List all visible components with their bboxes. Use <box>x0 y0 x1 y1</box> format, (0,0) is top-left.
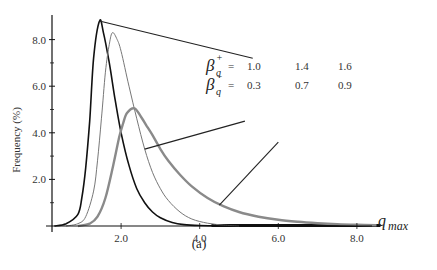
beta-plus-value-1: 1.0 <box>247 60 261 72</box>
x-tick-label: 8.0 <box>350 232 364 244</box>
beta-minus-value-3: 0.9 <box>338 79 352 91</box>
beta-minus-equals: = <box>228 79 234 91</box>
y-tick-label: 2.0 <box>32 173 46 185</box>
annotation-leader-line-3 <box>219 142 278 205</box>
beta-minus-value-1: 0.3 <box>247 79 261 91</box>
beta-minus-symbol: β <box>205 75 215 94</box>
series-line-1 <box>54 20 239 226</box>
beta-plus-value-3: 1.6 <box>338 60 352 72</box>
beta-plus-value-2: 1.4 <box>295 60 309 72</box>
x-tick-label: 6.0 <box>271 232 285 244</box>
beta-minus-value-2: 0.7 <box>295 79 309 91</box>
y-axis-title: Frequency (%) <box>10 107 23 173</box>
beta-plus-symbol: β <box>205 56 215 75</box>
series-layer <box>54 20 380 226</box>
legend: β + q = 1.0 1.4 1.6 β − q = 0.3 0.7 0.9 <box>205 52 352 97</box>
annotation-leader-line-2 <box>145 121 245 149</box>
x-tick-label: 2.0 <box>114 232 128 244</box>
x-axis-title-sub: max <box>388 219 409 233</box>
figure-caption: (a) <box>192 236 206 251</box>
legend-row-beta-minus: β − q = 0.3 0.7 0.9 <box>205 71 352 97</box>
y-tick-label: 6.0 <box>32 80 46 92</box>
x-axis-title: q max <box>378 212 409 233</box>
legend-row-beta-plus: β + q = 1.0 1.4 1.6 <box>205 52 352 78</box>
annotation-leader-line-1 <box>99 21 252 58</box>
beta-plus-sup: + <box>216 52 223 63</box>
x-axis-title-q: q <box>378 212 386 230</box>
frequency-chart: 2.04.06.08.0 2.04.06.08.0 Frequency (%) … <box>0 0 437 270</box>
beta-minus-sub: q <box>216 86 221 97</box>
beta-plus-equals: = <box>228 60 234 72</box>
beta-minus-sup: − <box>216 71 223 82</box>
y-tick-label: 4.0 <box>32 127 46 139</box>
y-tick-label: 8.0 <box>32 34 46 46</box>
